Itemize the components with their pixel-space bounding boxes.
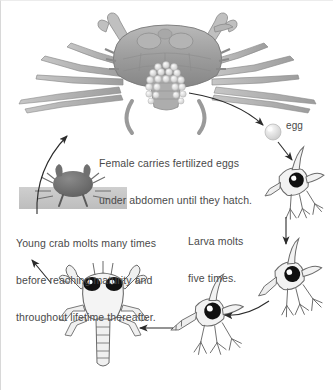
crab-life-cycle-figure: Female carries fertilized eggs under abd… [0,0,333,390]
larva-zoea-1 [257,144,332,225]
female-caption-line2: under abdomen until they hatch. [99,194,252,206]
arrow-eggmass-to-egg [189,93,263,125]
larva-zoea-2 [247,235,331,324]
female-caption-line1: Female carries fertilized eggs [99,157,252,169]
egg-sphere [265,124,281,140]
egg-label: egg [286,120,303,132]
young-crab-caption-line1: Young crab molts many times [16,237,156,249]
egg-mass [146,62,187,104]
larva-caption: Larva molts five times. [188,210,243,309]
arrow-egg-to-larva1 [278,142,292,160]
larva-caption-line2: five times. [188,272,243,284]
arrow-youngcrab-to-adult [37,136,67,214]
adult-crab-group [19,13,316,133]
young-crab-caption-line2: before reaching maturity and [16,274,156,286]
young-crab-caption-line3: throughout lifetime thereafter. [16,311,156,323]
larva-caption-line1: Larva molts [188,235,243,247]
young-crab-caption: Young crab molts many times before reach… [16,212,156,348]
